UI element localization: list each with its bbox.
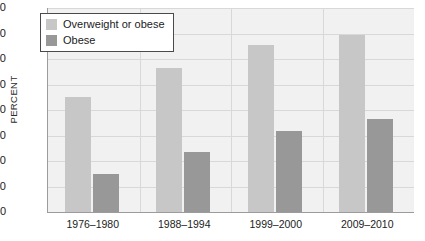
- y-tick-label: 60: [0, 52, 6, 64]
- bar: [156, 68, 182, 212]
- x-tick-label: 1988–1994: [139, 218, 231, 230]
- bar: [248, 45, 274, 212]
- x-tick-label: 2009–2010: [322, 218, 414, 230]
- legend-swatch-icon: [46, 35, 57, 46]
- bar-chart: PERCENT 80706050403020100 1976–19801988–…: [0, 0, 425, 241]
- bar-group: [231, 8, 323, 212]
- y-tick-label: 50: [0, 78, 6, 90]
- y-tick-label: 40: [0, 103, 6, 115]
- bar: [276, 131, 302, 212]
- y-tick-label: 30: [0, 129, 6, 141]
- legend-swatch-icon: [46, 19, 57, 30]
- legend-item: Overweight or obese: [46, 17, 165, 31]
- x-tick-label: 1976–1980: [47, 218, 139, 230]
- y-tick-label: 20: [0, 154, 6, 166]
- bar: [65, 97, 91, 212]
- bar-group: [323, 8, 415, 212]
- chart-legend: Overweight or obeseObese: [40, 13, 174, 52]
- legend-item-label: Overweight or obese: [63, 18, 165, 30]
- bar: [93, 174, 119, 212]
- legend-item-label: Obese: [63, 34, 95, 46]
- y-tick-label: 10: [0, 180, 6, 192]
- y-tick-label: 0: [0, 205, 6, 217]
- bar: [184, 152, 210, 212]
- bar: [339, 35, 365, 212]
- y-tick-label: 70: [0, 27, 6, 39]
- y-axis-title: PERCENT: [8, 65, 19, 135]
- y-tick-label: 80: [0, 1, 6, 13]
- legend-item: Obese: [46, 33, 165, 47]
- x-tick-label: 1999–2000: [230, 218, 322, 230]
- bar: [367, 119, 393, 212]
